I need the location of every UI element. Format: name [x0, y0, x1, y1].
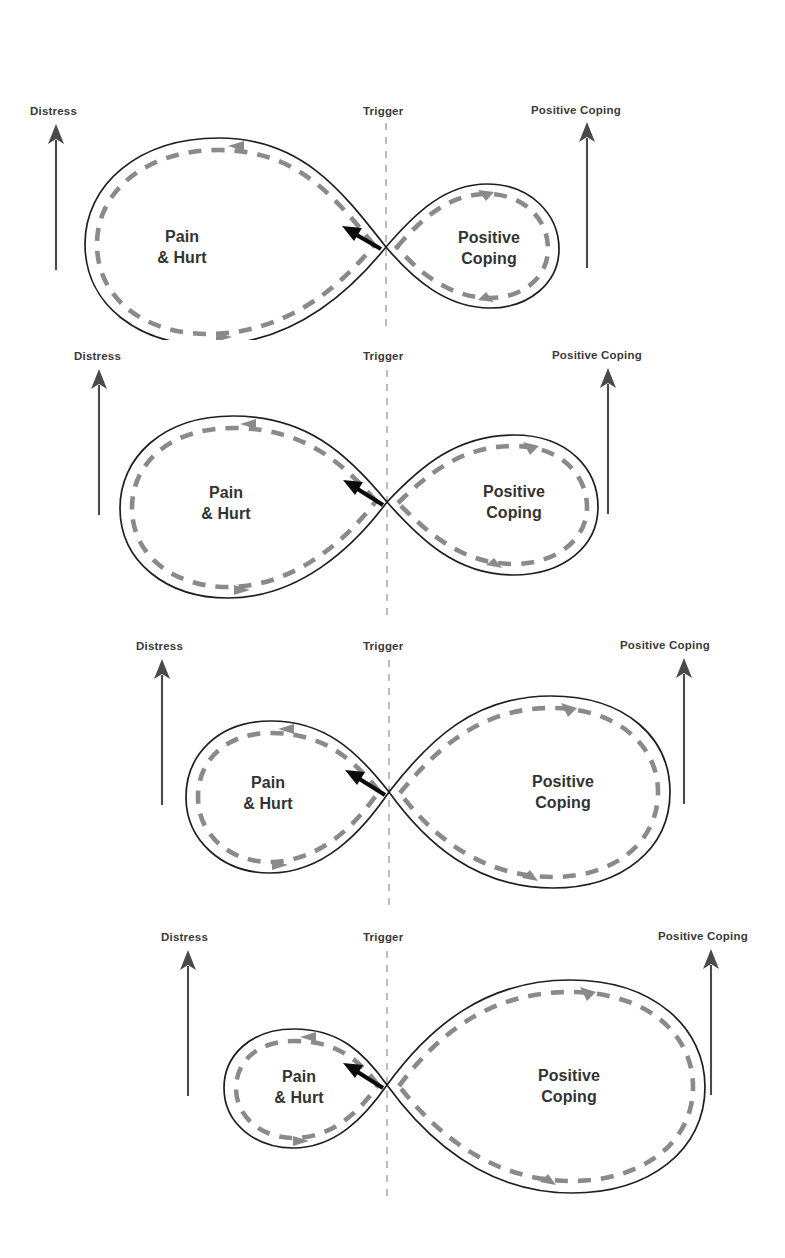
- lemniscate-outline-4: [224, 980, 705, 1193]
- black-entry-arrow-icon: [345, 770, 385, 795]
- distress-label: Distress: [30, 105, 77, 117]
- svg-text:Pain: Pain: [251, 774, 285, 791]
- svg-text:& Hurt: & Hurt: [157, 249, 207, 266]
- svg-text:Coping: Coping: [541, 1088, 597, 1105]
- pain-hurt-loop-label: Pain & Hurt: [201, 484, 251, 522]
- distress-up-arrow-icon: [48, 124, 64, 270]
- positive-coping-label: Positive Coping: [620, 639, 710, 651]
- pain-hurt-loop-label: Pain & Hurt: [243, 774, 293, 812]
- pain-hurt-loop-label: Pain & Hurt: [157, 228, 207, 266]
- flow-arrow-track-left-1: [97, 141, 374, 340]
- lemniscate-figure: Distress Trigger Positive Coping: [0, 0, 785, 1258]
- svg-text:Positive: Positive: [538, 1067, 600, 1084]
- black-entry-arrow-icon: [342, 226, 381, 249]
- distress-up-arrow-icon: [180, 950, 196, 1096]
- distress-label: Distress: [74, 350, 121, 362]
- flow-arrow-track-right-3: [400, 703, 658, 881]
- svg-text:Coping: Coping: [535, 794, 591, 811]
- trigger-label: Trigger: [363, 350, 404, 362]
- trigger-label: Trigger: [363, 931, 404, 943]
- svg-text:& Hurt: & Hurt: [243, 795, 293, 812]
- svg-text:Positive: Positive: [483, 483, 545, 500]
- positive-coping-loop-label: Positive Coping: [532, 773, 594, 811]
- positive-coping-up-arrow-icon: [676, 658, 692, 804]
- svg-text:& Hurt: & Hurt: [274, 1089, 324, 1106]
- positive-coping-up-arrow-icon: [703, 949, 719, 1095]
- svg-text:Pain: Pain: [165, 228, 199, 245]
- positive-coping-loop-label: Positive Coping: [458, 229, 520, 267]
- positive-coping-label: Positive Coping: [531, 104, 621, 116]
- distress-label: Distress: [136, 640, 183, 652]
- panel-stage-1: Distress Trigger Positive Coping: [0, 40, 785, 340]
- svg-text:Pain: Pain: [209, 484, 243, 501]
- panel-stage-4: Distress Trigger Positive Coping: [0, 910, 785, 1210]
- positive-coping-label: Positive Coping: [552, 349, 642, 361]
- svg-text:& Hurt: & Hurt: [201, 505, 251, 522]
- positive-coping-up-arrow-icon: [579, 122, 595, 268]
- svg-text:Pain: Pain: [282, 1068, 316, 1085]
- flow-arrow-track-right-1: [397, 190, 548, 302]
- distress-label: Distress: [161, 931, 208, 943]
- positive-coping-loop-label: Positive Coping: [483, 483, 545, 521]
- positive-coping-loop-label: Positive Coping: [538, 1067, 600, 1105]
- panel-stage-3: Distress Trigger Positive Coping: [0, 620, 785, 910]
- panel-stage-2: Distress Trigger Positive Coping: [0, 330, 785, 620]
- svg-text:Coping: Coping: [461, 250, 517, 267]
- black-entry-arrow-icon: [343, 480, 383, 505]
- pain-hurt-loop-label: Pain & Hurt: [274, 1068, 324, 1106]
- distress-up-arrow-icon: [91, 369, 107, 515]
- positive-coping-label: Positive Coping: [658, 930, 748, 942]
- svg-text:Coping: Coping: [486, 504, 542, 521]
- distress-up-arrow-icon: [154, 659, 170, 805]
- flow-arrow-track-right-4: [399, 987, 693, 1185]
- positive-coping-up-arrow-icon: [600, 368, 616, 514]
- trigger-label: Trigger: [363, 640, 404, 652]
- trigger-label: Trigger: [363, 105, 404, 117]
- flow-arrow-track-left-2: [132, 419, 376, 595]
- svg-text:Positive: Positive: [532, 773, 594, 790]
- svg-text:Positive: Positive: [458, 229, 520, 246]
